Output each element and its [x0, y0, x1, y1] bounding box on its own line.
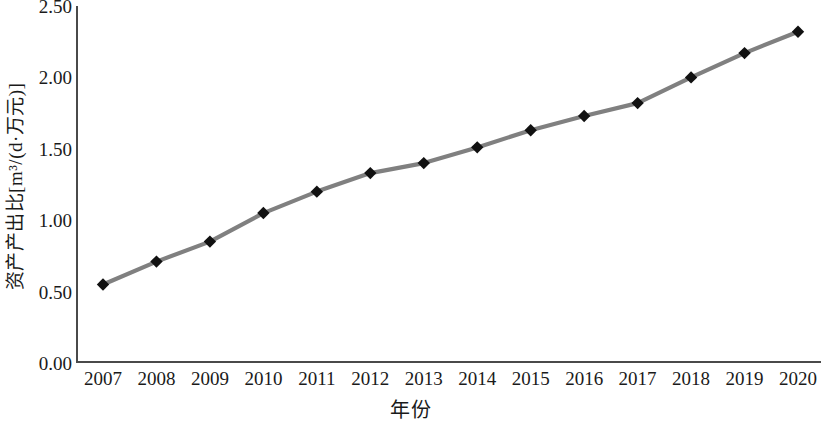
x-tick-label: 2018 [661, 367, 721, 391]
y-tick-label: 1.00 [28, 211, 72, 230]
data-point-marker [738, 47, 750, 59]
x-axis-tick-labels: 2007200820092010201120122013201420152016… [77, 367, 821, 393]
data-point-marker [150, 255, 162, 267]
x-tick-label: 2008 [126, 367, 186, 391]
x-axis-title: 年份 [0, 394, 821, 423]
x-tick-label: 2011 [287, 367, 347, 391]
x-tick-label: 2016 [554, 367, 614, 391]
data-point-marker [471, 141, 483, 153]
data-point-marker [364, 167, 376, 179]
data-point-marker [418, 157, 430, 169]
data-point-marker [524, 124, 536, 136]
x-tick-label: 2009 [180, 367, 240, 391]
x-tick-label: 2017 [608, 367, 668, 391]
y-tick-label: 2.50 [28, 0, 72, 16]
y-axis-title-text: 资产产出比[m³/(d·万元)] [1, 82, 28, 290]
x-tick-label: 2019 [715, 367, 775, 391]
x-tick-label: 2010 [233, 367, 293, 391]
x-tick-label: 2015 [501, 367, 561, 391]
series-plot [77, 6, 821, 363]
y-axis-tick-labels: 0.000.501.001.502.002.50 [26, 0, 72, 423]
y-tick-label: 1.50 [28, 139, 72, 158]
y-tick-label: 0.00 [28, 354, 72, 373]
x-tick-label: 2007 [73, 367, 133, 391]
y-axis-title: 资产产出比[m³/(d·万元)] [0, 0, 28, 372]
y-tick-label: 2.00 [28, 68, 72, 87]
series-line-resource-output-ratio [103, 32, 798, 285]
x-tick-label: 2012 [340, 367, 400, 391]
y-tick-label: 0.50 [28, 282, 72, 301]
line-chart: 资产产出比[m³/(d·万元)] 0.000.501.001.502.002.5… [0, 0, 821, 423]
data-point-marker [311, 185, 323, 197]
x-tick-label: 2013 [394, 367, 454, 391]
x-tick-label: 2020 [768, 367, 821, 391]
series-markers [97, 26, 804, 291]
plot-area [77, 6, 821, 363]
x-tick-label: 2014 [447, 367, 507, 391]
data-point-marker [578, 110, 590, 122]
data-point-marker [97, 278, 109, 290]
data-point-marker [792, 26, 804, 38]
